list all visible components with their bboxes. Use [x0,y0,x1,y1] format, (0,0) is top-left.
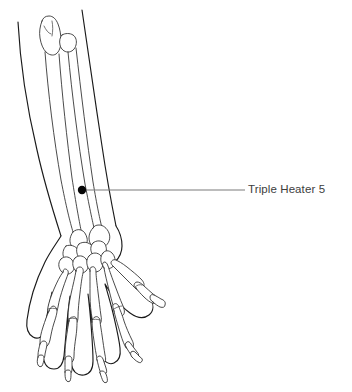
radius-shaft-lateral-line [76,48,102,228]
forearm-hand-skeleton-illustration [0,0,352,392]
skin-outline-group [18,10,153,375]
acupuncture-point-label: Triple Heater 5 [248,182,325,196]
radius-shaft-medial-line [68,52,95,232]
olecranon-bone [40,16,61,55]
anatomical-figure: Triple Heater 5 [0,0,352,392]
ulna-shaft-medial-line [45,52,73,232]
distal-phalanx-5 [37,355,44,367]
acupuncture-point-marker[interactable] [78,186,86,194]
distal-phalanx-4 [65,370,71,382]
annotation-group [78,186,245,194]
radial-head-bone [60,34,77,53]
ulna-shaft-lateral-line [59,54,81,230]
distal-phalanx-2 [131,351,143,362]
